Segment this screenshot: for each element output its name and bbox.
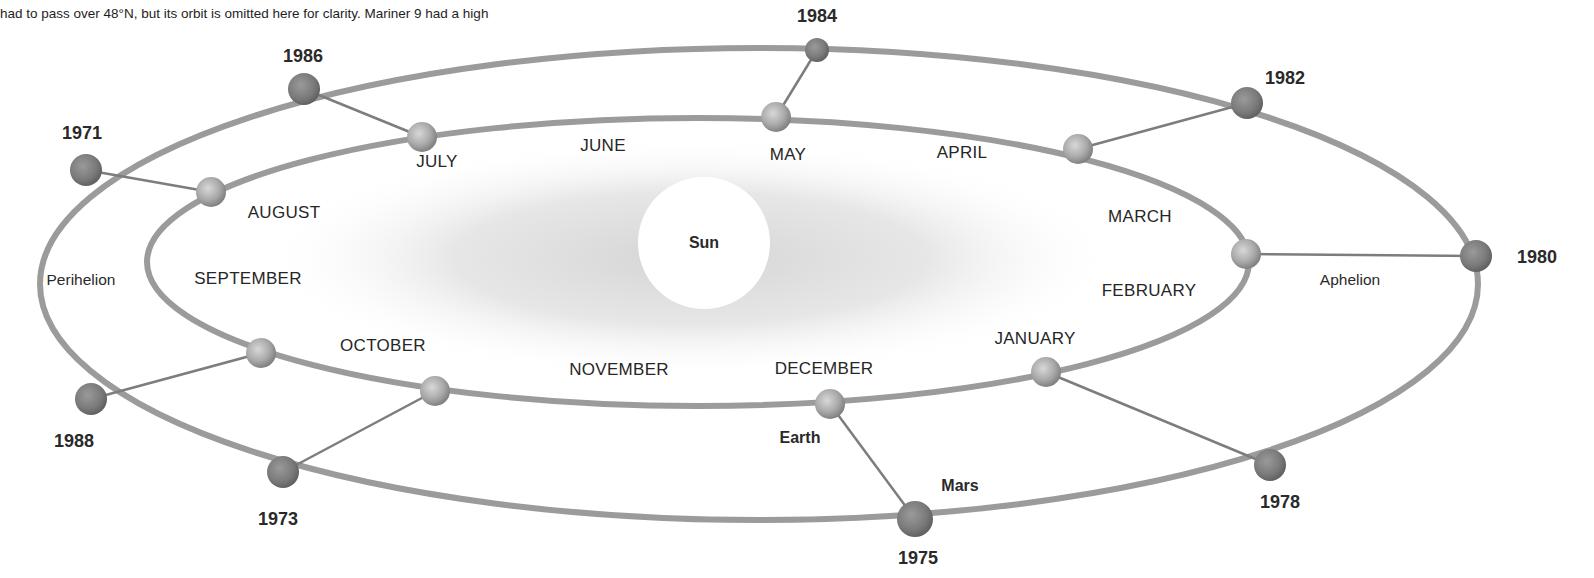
month-label-may: MAY [770, 145, 806, 165]
year-label-1975: 1975 [898, 548, 938, 569]
mars-position-1975 [897, 501, 933, 537]
earth-position-1980 [1231, 239, 1261, 269]
month-label-june: JUNE [580, 136, 626, 156]
mars-position-1980 [1460, 240, 1492, 272]
year-label-1982: 1982 [1265, 68, 1305, 89]
year-label-1973: 1973 [258, 509, 298, 530]
month-label-march: MARCH [1108, 207, 1172, 227]
earth-position-1984 [761, 102, 791, 132]
perihelion-label: Perihelion [47, 271, 116, 289]
year-label-1986: 1986 [283, 46, 323, 67]
earth-label: Earth [780, 429, 821, 447]
month-label-april: APRIL [937, 143, 988, 163]
month-label-july: JULY [416, 152, 458, 172]
mars-position-1982 [1231, 87, 1263, 119]
sun-label: Sun [689, 234, 719, 252]
earth-position-1978 [1031, 357, 1061, 387]
connector-line-1986 [304, 89, 422, 137]
earth-position-1982 [1063, 134, 1093, 164]
mars-label: Mars [941, 477, 978, 495]
mars-position-1973 [267, 456, 299, 488]
mars-position-1988 [75, 383, 107, 415]
connector-line-1982 [1078, 103, 1247, 149]
year-label-1971: 1971 [62, 123, 102, 144]
mars-position-1986 [288, 73, 320, 105]
month-label-november: NOVEMBER [569, 360, 669, 380]
connector-line-1973 [283, 391, 435, 472]
earth-position-1971 [196, 177, 226, 207]
month-label-october: OCTOBER [340, 336, 426, 356]
mars-position-1971 [70, 154, 102, 186]
year-label-1984: 1984 [797, 6, 837, 27]
connector-line-1988 [91, 353, 261, 399]
mars-position-1984 [805, 38, 829, 62]
connector-line-1975 [830, 404, 915, 519]
month-label-september: SEPTEMBER [194, 269, 302, 289]
earth-position-1975 [815, 389, 845, 419]
year-label-1980: 1980 [1517, 247, 1557, 268]
orbit-diagram [0, 0, 1594, 578]
connector-line-1980 [1246, 254, 1476, 256]
year-label-1988: 1988 [54, 431, 94, 452]
year-label-1978: 1978 [1260, 492, 1300, 513]
earth-position-1988 [246, 338, 276, 368]
earth-position-1986 [407, 122, 437, 152]
month-label-december: DECEMBER [775, 359, 874, 379]
aphelion-label: Aphelion [1320, 271, 1380, 289]
connector-line-1978 [1046, 372, 1270, 465]
earth-position-1973 [420, 376, 450, 406]
month-label-february: FEBRUARY [1102, 281, 1197, 301]
mars-position-1978 [1254, 449, 1286, 481]
month-label-august: AUGUST [248, 203, 321, 223]
month-label-january: JANUARY [994, 329, 1075, 349]
